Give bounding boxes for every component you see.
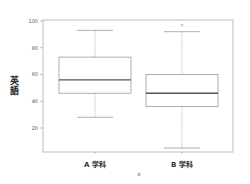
- y-tick-label: 100: [28, 18, 38, 24]
- x-tick-label: B 学科: [171, 160, 193, 169]
- y-axis-title-char: 語: [10, 85, 19, 96]
- y-axis-title: 英語: [9, 75, 20, 96]
- x-axis-title: x: [137, 170, 141, 177]
- box-a: [59, 30, 131, 117]
- iqr-box: [146, 75, 218, 107]
- iqr-box: [59, 57, 131, 93]
- y-tick-label: 20: [32, 125, 38, 131]
- outlier-point: [181, 24, 183, 26]
- box-plot: 20406080100 A 学科B 学科 x 英語: [0, 0, 250, 184]
- y-tick-label: 60: [32, 71, 38, 77]
- y-axis-title-char: 英: [9, 75, 20, 86]
- x-tick-label: A 学科: [84, 160, 106, 169]
- y-tick-label: 80: [32, 45, 38, 51]
- box-b: [146, 24, 218, 148]
- y-tick-label: 40: [32, 98, 38, 104]
